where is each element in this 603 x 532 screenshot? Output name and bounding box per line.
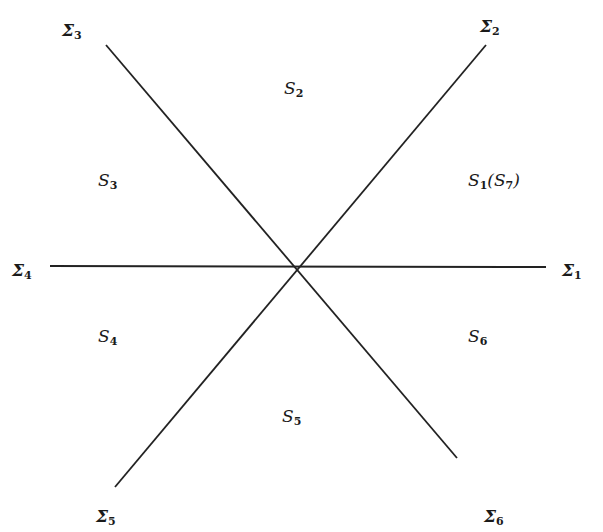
sigma-symbol: Σ xyxy=(12,260,24,280)
sector-symbol: S xyxy=(468,170,480,190)
sector-symbol: S xyxy=(98,170,110,190)
sector-index: 3 xyxy=(110,179,118,192)
sector-index: 5 xyxy=(294,415,302,428)
label-sector-s2: S2 xyxy=(284,80,303,99)
ray-sigma4-sigma1 xyxy=(50,266,546,267)
sigma-symbol: Σ xyxy=(480,16,492,36)
sigma-index: 5 xyxy=(108,515,116,528)
sigma-index: 1 xyxy=(574,269,582,282)
sigma-index: 3 xyxy=(74,29,82,42)
sigma-index: 2 xyxy=(492,25,500,38)
sigma-symbol: Σ xyxy=(96,506,108,526)
sector-symbol: S xyxy=(98,326,110,346)
label-sigma5: Σ5 xyxy=(96,508,116,527)
sigma-symbol: Σ xyxy=(484,506,496,526)
label-sigma3: Σ3 xyxy=(62,22,82,41)
sector-alias-close: ) xyxy=(513,170,520,190)
sigma-index: 4 xyxy=(24,269,32,282)
sigma-symbol: Σ xyxy=(62,20,74,40)
sector-index: 4 xyxy=(110,335,118,348)
sector-alias: (S xyxy=(487,170,505,190)
label-sector-s5: S5 xyxy=(282,408,301,427)
sigma-symbol: Σ xyxy=(562,260,574,280)
label-sector-s6: S6 xyxy=(468,328,487,347)
label-sigma4: Σ4 xyxy=(12,262,32,281)
label-sigma2: Σ2 xyxy=(480,18,500,37)
label-sector-s4: S4 xyxy=(98,328,117,347)
label-sector-s1: S1(S7) xyxy=(468,172,520,191)
label-sector-s3: S3 xyxy=(98,172,117,191)
label-sigma1: Σ1 xyxy=(562,262,582,281)
sector-symbol: S xyxy=(284,78,296,98)
ray-sigma3-sigma6 xyxy=(106,45,457,458)
label-sigma6: Σ6 xyxy=(484,508,504,527)
sector-index: 6 xyxy=(480,335,488,348)
sigma-index: 6 xyxy=(496,515,504,528)
sector-symbol: S xyxy=(282,406,294,426)
sector-symbol: S xyxy=(468,326,480,346)
sector-index: 2 xyxy=(296,87,304,100)
